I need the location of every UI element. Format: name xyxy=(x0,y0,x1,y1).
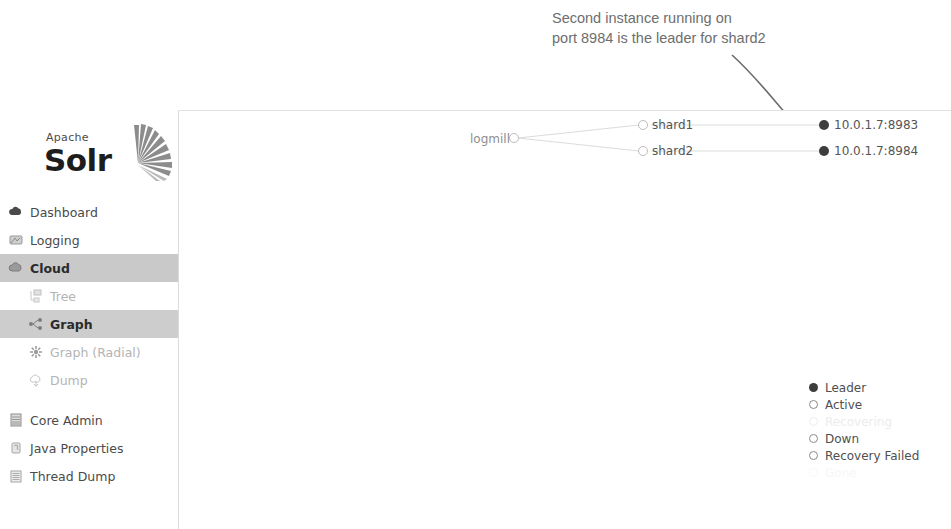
sidebar-item-graph[interactable]: Graph xyxy=(0,310,178,338)
legend-label: Recovering xyxy=(825,415,892,429)
legend-item-recovery-failed: Recovery Failed xyxy=(809,447,949,464)
node-label-shard1[interactable]: shard1 xyxy=(652,118,693,132)
sidebar-nav: Dashboard Logging Cloud xyxy=(0,198,178,490)
sidebar-item-label: Thread Dump xyxy=(30,469,115,484)
sidebar-item-cloud[interactable]: Cloud xyxy=(0,254,178,282)
node-shard2-circle xyxy=(639,147,648,156)
legend-item-recovering: Recovering xyxy=(809,413,949,430)
sidebar-item-thread-dump[interactable]: Thread Dump xyxy=(0,462,178,490)
cloud-icon xyxy=(8,260,24,276)
sidebar-item-label: Tree xyxy=(50,289,76,304)
legend-label: Down xyxy=(825,432,859,446)
java-properties-icon xyxy=(8,440,24,456)
sidebar-item-label: Cloud xyxy=(30,261,70,276)
sidebar-item-dump[interactable]: Dump xyxy=(0,366,178,394)
node-label-collection[interactable]: logmill xyxy=(470,132,510,146)
legend-item-leader: Leader xyxy=(809,379,949,396)
node-replica2-circle xyxy=(819,146,829,156)
cloud-graph-panel: logmill shard1 shard2 10.0.1.7:8983 10.0… xyxy=(178,110,951,529)
sidebar-item-label: Core Admin xyxy=(30,413,103,428)
edge-logmill-shard1 xyxy=(518,125,639,138)
sidebar-item-logging[interactable]: Logging xyxy=(0,226,178,254)
solr-logo[interactable]: Apache Solr xyxy=(44,123,174,185)
legend-bullet-recovery-failed-icon xyxy=(809,451,818,460)
cloud-dashboard-icon xyxy=(8,204,24,220)
node-label-replica2[interactable]: 10.0.1.7:8984 xyxy=(834,144,918,158)
legend-bullet-active-icon xyxy=(809,400,818,409)
sidebar-item-label: Dashboard xyxy=(30,205,98,220)
sidebar: Apache Solr Dashboard Logging xyxy=(0,110,178,529)
graph-radial-icon xyxy=(28,344,44,360)
core-admin-icon xyxy=(8,412,24,428)
sidebar-item-label: Logging xyxy=(30,233,80,248)
legend-bullet-recovering-icon xyxy=(809,417,818,426)
solr-admin-window: Second instance running on port 8984 is … xyxy=(0,0,951,529)
sidebar-item-tree[interactable]: Tree xyxy=(0,282,178,310)
legend-bullet-down-icon xyxy=(809,434,818,443)
node-replica1-circle xyxy=(819,120,829,130)
logging-icon xyxy=(8,232,24,248)
sidebar-item-dashboard[interactable]: Dashboard xyxy=(0,198,178,226)
graph-legend: Leader Active Recovering Down Recovery F… xyxy=(809,379,949,481)
dump-icon xyxy=(28,372,44,388)
nav-divider-gap xyxy=(0,394,178,406)
legend-bullet-gone-icon xyxy=(809,468,818,477)
sidebar-item-label: Graph xyxy=(50,317,93,332)
legend-item-down: Down xyxy=(809,430,949,447)
sidebar-subnav-cloud: Tree Graph xyxy=(0,282,178,394)
node-label-replica1[interactable]: 10.0.1.7:8983 xyxy=(834,118,918,132)
annotation-text: Second instance running on port 8984 is … xyxy=(552,8,892,48)
legend-item-active: Active xyxy=(809,396,949,413)
sidebar-item-label: Dump xyxy=(50,373,88,388)
tree-icon xyxy=(28,288,44,304)
legend-item-gone: Gone xyxy=(809,464,949,481)
node-shard1-circle xyxy=(639,121,648,130)
edge-logmill-shard2 xyxy=(518,138,639,151)
legend-label: Gone xyxy=(825,466,857,480)
node-logmill-circle xyxy=(510,134,519,143)
graph-icon xyxy=(28,316,44,332)
logo-solr-text: Solr xyxy=(44,142,112,178)
sidebar-item-graph-radial[interactable]: Graph (Radial) xyxy=(0,338,178,366)
node-label-shard2[interactable]: shard2 xyxy=(652,144,693,158)
solr-rays-icon xyxy=(104,123,176,181)
sidebar-item-core-admin[interactable]: Core Admin xyxy=(0,406,178,434)
legend-label: Leader xyxy=(825,381,866,395)
sidebar-item-java-properties[interactable]: Java Properties xyxy=(0,434,178,462)
legend-label: Active xyxy=(825,398,862,412)
sidebar-item-label: Graph (Radial) xyxy=(50,345,141,360)
sidebar-item-label: Java Properties xyxy=(30,441,124,456)
legend-label: Recovery Failed xyxy=(825,449,919,463)
legend-bullet-leader-icon xyxy=(809,383,818,392)
thread-dump-icon xyxy=(8,468,24,484)
